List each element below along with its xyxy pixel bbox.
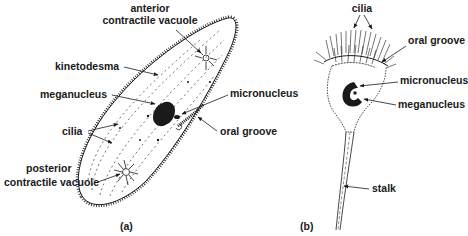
paramecium-illustration: [78, 18, 236, 205]
label-micronucleus-b: micronucleus: [400, 74, 468, 86]
stalk: [336, 132, 346, 230]
label-stalk: stalk: [372, 182, 396, 194]
label-posterior: posterior: [26, 162, 72, 174]
label-meganucleus-a: meganucleus: [40, 88, 107, 100]
vorticella-illustration: [314, 30, 396, 230]
cilia-b-arrow-1: [354, 15, 360, 28]
cilia-b-arrow-2: [364, 15, 372, 29]
stalk-arrow: [344, 186, 369, 189]
label-micronucleus-a: micronucleus: [230, 87, 298, 99]
label-anterior: anterior: [130, 2, 169, 14]
label-cilia-a: cilia: [62, 125, 83, 137]
label-meganucleus-b: meganucleus: [398, 98, 465, 110]
label-kinetodesma: kinetodesma: [55, 60, 119, 72]
micronucleus-b: [353, 91, 357, 95]
oral-groove-a-arrow: [198, 117, 217, 131]
caption-b: (b): [300, 220, 313, 232]
bell-body: [327, 66, 386, 132]
cilia-crown: [314, 30, 396, 68]
caption-a: (a): [120, 220, 133, 232]
label-oral-groove-b: oral groove: [408, 34, 465, 46]
diagram-canvas: anterior contractile vacuole kinetodesma…: [0, 0, 468, 236]
micronucleus: [174, 115, 180, 119]
label-oral-groove-a: oral groove: [220, 125, 277, 137]
label-posterior-vacuole: contractile vacuole: [4, 176, 99, 188]
label-cilia-b: cilia: [352, 2, 373, 14]
label-anterior-vacuole: contractile vacuole: [102, 14, 197, 26]
